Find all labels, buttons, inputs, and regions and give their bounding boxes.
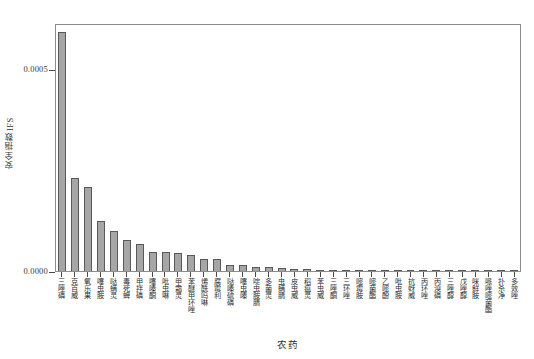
x-tick-cell <box>301 272 314 277</box>
x-tick-mark <box>152 272 153 277</box>
x-tick-label: 虫螨腈 <box>277 278 285 299</box>
bar-cell[interactable] <box>236 25 249 271</box>
x-tick-mark <box>87 272 88 277</box>
bar-cell[interactable] <box>82 25 95 271</box>
x-tick-label: 丙溴磷 <box>433 278 441 299</box>
bar[interactable] <box>226 265 234 271</box>
bar-cell[interactable] <box>185 25 198 271</box>
bar[interactable] <box>174 253 182 271</box>
bar-cell[interactable] <box>224 25 237 271</box>
bar-cell[interactable] <box>249 25 262 271</box>
bar-cell[interactable] <box>327 25 340 271</box>
bar-cell[interactable] <box>443 25 456 271</box>
bar-cell[interactable] <box>507 25 520 271</box>
bar[interactable] <box>58 32 66 271</box>
bar[interactable] <box>149 252 157 271</box>
bar-cell[interactable] <box>340 25 353 271</box>
bar-cell[interactable] <box>146 25 159 271</box>
bar[interactable] <box>239 265 247 271</box>
x-tick-mark <box>164 272 165 277</box>
bar-cell[interactable] <box>417 25 430 271</box>
bar[interactable] <box>407 270 415 271</box>
bar[interactable] <box>303 269 311 271</box>
bar[interactable] <box>110 231 118 271</box>
bar[interactable] <box>84 187 92 271</box>
bar[interactable] <box>162 252 170 271</box>
bar-cell[interactable] <box>314 25 327 271</box>
bar[interactable] <box>329 270 337 271</box>
bar[interactable] <box>97 221 105 271</box>
bar[interactable] <box>381 270 389 271</box>
bar-cell[interactable] <box>159 25 172 271</box>
bar[interactable] <box>445 270 453 271</box>
bar-cell[interactable] <box>133 25 146 271</box>
bar-cell[interactable] <box>275 25 288 271</box>
x-tick-label: 嘧霉胺 <box>355 278 363 299</box>
bar[interactable] <box>419 270 427 271</box>
x-tick-label: 甲霜灵 <box>174 278 182 299</box>
bar[interactable] <box>510 270 518 271</box>
bar-cell[interactable] <box>56 25 69 271</box>
x-tick-cell <box>327 272 340 277</box>
bar-cell[interactable] <box>198 25 211 271</box>
bar-cell[interactable] <box>481 25 494 271</box>
x-tick-label-cell: 吡虫啉 <box>159 278 172 334</box>
bar[interactable] <box>316 270 324 271</box>
bar[interactable] <box>200 259 208 271</box>
bar[interactable] <box>355 270 363 271</box>
bar[interactable] <box>484 270 492 271</box>
bar[interactable] <box>252 267 260 271</box>
bar-cell[interactable] <box>494 25 507 271</box>
bar-cell[interactable] <box>378 25 391 271</box>
bar-cell[interactable] <box>95 25 108 271</box>
x-tick-cell <box>340 272 353 277</box>
bar-cell[interactable] <box>430 25 443 271</box>
bar[interactable] <box>187 255 195 271</box>
x-tick-label: 三唑磷 <box>57 278 65 299</box>
bar[interactable] <box>265 267 273 271</box>
x-tick-label: 扑杀净 <box>497 278 505 299</box>
bar[interactable] <box>394 270 402 271</box>
x-tick-cell <box>430 272 443 277</box>
x-tick-label: 乙嘧酚 <box>381 278 389 299</box>
x-tick-cell <box>159 272 172 277</box>
bar[interactable] <box>432 270 440 271</box>
x-tick-label-cell: 吡虫胺 <box>391 278 404 334</box>
bar-cell[interactable] <box>108 25 121 271</box>
x-tick-cell <box>184 272 197 277</box>
bar[interactable] <box>213 259 221 271</box>
bar-cell[interactable] <box>262 25 275 271</box>
bar-cell[interactable] <box>404 25 417 271</box>
bar[interactable] <box>368 270 376 271</box>
bar-cell[interactable] <box>301 25 314 271</box>
x-axis-tick-labels: 三唑磷克百威氧乐果噻虫胺哒螨灵毒死蜱甲拌磷噻嗪酮吡虫啉甲霜灵苯醚甲环唑烯酰吗啉腐… <box>55 278 521 334</box>
bar-cell[interactable] <box>365 25 378 271</box>
bar[interactable] <box>290 269 298 271</box>
x-tick-mark <box>255 272 256 277</box>
bar-cell[interactable] <box>172 25 185 271</box>
x-tick-label-cell: 乙嘧酚 <box>378 278 391 334</box>
bar-cell[interactable] <box>211 25 224 271</box>
bar-cell[interactable] <box>352 25 365 271</box>
bar-cell[interactable] <box>456 25 469 271</box>
bar[interactable] <box>497 270 505 271</box>
x-tick-cell <box>68 272 81 277</box>
bar[interactable] <box>71 178 79 271</box>
bar-cell[interactable] <box>120 25 133 271</box>
bar-cell[interactable] <box>391 25 404 271</box>
bar[interactable] <box>342 270 350 271</box>
x-tick-label-cell: 克百威 <box>68 278 81 334</box>
bar[interactable] <box>136 244 144 271</box>
x-tick-label: 抗蚜威 <box>407 278 415 299</box>
x-tick-label-cell: 哒螨灵 <box>107 278 120 334</box>
bar-cell[interactable] <box>288 25 301 271</box>
bar[interactable] <box>278 268 286 271</box>
bar-cell[interactable] <box>469 25 482 271</box>
bar-cell[interactable] <box>69 25 82 271</box>
x-tick-cell <box>236 272 249 277</box>
bar[interactable] <box>123 240 131 271</box>
bar[interactable] <box>458 270 466 271</box>
y-tick-label-wrap: 0.0000 <box>0 266 48 278</box>
x-tick-label: 稻瘟灵 <box>303 278 311 299</box>
bar[interactable] <box>471 270 479 271</box>
